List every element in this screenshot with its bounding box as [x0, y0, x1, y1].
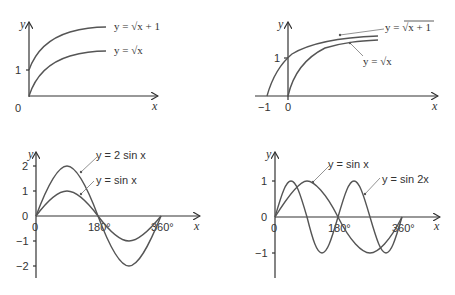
- origin-label: 0: [15, 102, 21, 114]
- tick-label-1: 1: [22, 185, 28, 197]
- chart-sqrt-shift-up: y x 1 0 y = √x + 1 y = √x: [15, 17, 160, 114]
- legend-sin-x: y = sin x: [328, 158, 369, 170]
- y-axis-label: y: [265, 147, 272, 161]
- legend-sqrt-x-plus-1: y = √x + 1: [114, 20, 160, 32]
- curve-sqrt-x: [29, 51, 106, 96]
- x-axis-label: x: [151, 99, 158, 113]
- curve-sqrt-x-plus-1: [29, 27, 106, 70]
- chart-sine-amplitude: y x 2 1 0 −1 −2 0 180° 360° y = 2 sin x …: [16, 147, 200, 278]
- chart-sqrt-shift-left: y x 1 −1 0 y = √x + 1 y = √x: [255, 17, 438, 113]
- legend-sqrt-x: y = √x: [363, 55, 392, 67]
- y-axis-label: y: [27, 147, 34, 161]
- chart-sine-frequency: y x 1 0 −1 0 180° 360° y = sin x y = sin…: [255, 147, 440, 278]
- legend-sqrt-x: y = √x: [114, 44, 143, 56]
- legend-sin-x: y = sin x: [96, 174, 137, 186]
- tick-label-1: 1: [261, 175, 267, 187]
- legend-sin-2x: y = sin 2x: [382, 173, 429, 185]
- curve-sqrt-x-plus-1: [267, 36, 378, 96]
- y-axis-label: y: [19, 17, 26, 31]
- origin-label: 0: [285, 101, 291, 113]
- legend-sqrt-x-plus-1: y = √x + 1: [385, 21, 431, 33]
- x-axis-label: x: [431, 99, 438, 113]
- tick-label-0: 0: [22, 210, 28, 222]
- x-axis-label: x: [433, 219, 440, 233]
- tick-label-0: 0: [261, 211, 267, 223]
- tick-label-neg2: −2: [16, 260, 29, 272]
- leader-line: [350, 43, 363, 56]
- tick-label-1: 1: [274, 52, 280, 64]
- legend-2-sin-x: y = 2 sin x: [96, 149, 146, 161]
- figure: y x 1 0 y = √x + 1 y = √x y x 1 −1 0 y =…: [0, 0, 455, 295]
- x-tick-0: 0: [271, 222, 277, 234]
- tick-label-neg1: −1: [16, 235, 29, 247]
- x-axis-label: x: [193, 219, 200, 233]
- x-tick-0: 0: [32, 221, 38, 233]
- tick-label-1: 1: [15, 64, 21, 76]
- y-axis-label: y: [277, 17, 284, 31]
- tick-label-neg1: −1: [255, 247, 268, 259]
- tick-label-2: 2: [22, 160, 28, 172]
- leader-line: [340, 29, 384, 35]
- tick-label-neg1: −1: [258, 101, 271, 113]
